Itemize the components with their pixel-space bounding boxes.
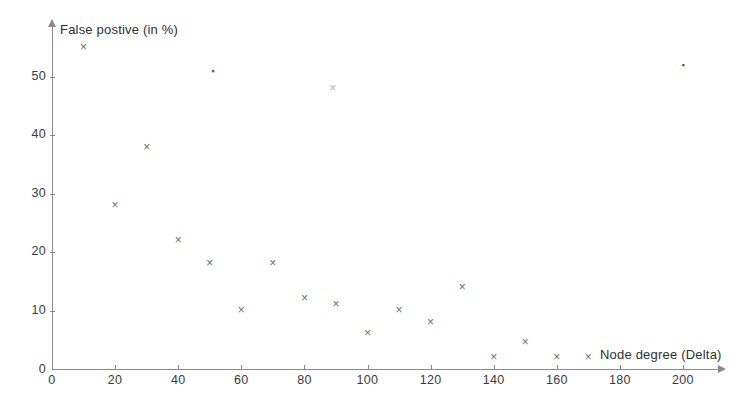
y-tick-10 (50, 311, 55, 312)
data-point: × (551, 352, 562, 363)
data-point: × (299, 293, 310, 304)
y-tick-20 (50, 252, 55, 253)
y-tick-label-30: 30 (16, 186, 46, 200)
x-tick-label-180: 180 (597, 373, 643, 387)
data-point: × (457, 282, 468, 293)
x-tick-label-60: 60 (218, 373, 264, 387)
y-tick-label-20: 20 (16, 244, 46, 258)
y-axis-arrow-icon (48, 19, 56, 27)
data-point: × (267, 258, 278, 269)
y-tick-40 (50, 135, 55, 136)
x-tick-160 (557, 365, 558, 370)
data-point: × (520, 337, 531, 348)
data-point: ▪ (207, 66, 218, 77)
data-point: × (204, 258, 215, 269)
x-tick-20 (115, 365, 116, 370)
x-tick-40 (178, 365, 179, 370)
x-tick-label-140: 140 (471, 373, 517, 387)
x-axis-title: Node degree (Delta) (600, 347, 722, 362)
data-point: × (78, 42, 89, 53)
x-tick-label-160: 160 (534, 373, 580, 387)
x-tick-100 (368, 365, 369, 370)
x-tick-label-200: 200 (660, 373, 706, 387)
data-point: × (173, 235, 184, 246)
data-point: × (327, 83, 338, 94)
data-point: × (141, 142, 152, 153)
x-tick-label-40: 40 (155, 373, 201, 387)
x-tick-label-20: 20 (92, 373, 138, 387)
data-point: × (583, 352, 594, 363)
x-tick-140 (494, 365, 495, 370)
x-tick-60 (241, 365, 242, 370)
y-axis-title: False postive (in %) (60, 22, 178, 37)
data-point: ▪ (678, 60, 689, 71)
data-point: × (362, 328, 373, 339)
data-point: × (488, 352, 499, 363)
y-tick-50 (50, 77, 55, 78)
y-tick-30 (50, 194, 55, 195)
x-tick-label-0: 0 (29, 373, 75, 387)
y-tick-label-10: 10 (16, 303, 46, 317)
data-point: × (394, 305, 405, 316)
data-point: × (236, 305, 247, 316)
x-tick-80 (304, 365, 305, 370)
x-tick-label-80: 80 (281, 373, 327, 387)
x-tick-label-120: 120 (408, 373, 454, 387)
x-tick-120 (431, 365, 432, 370)
scatter-chart-figure: False postive (in %) Node degree (Delta)… (0, 0, 741, 413)
x-tick-180 (620, 365, 621, 370)
plot-area: False postive (in %) Node degree (Delta)… (0, 0, 741, 413)
x-axis-arrow-icon (718, 365, 726, 373)
y-tick-label-50: 50 (16, 69, 46, 83)
x-tick-label-100: 100 (345, 373, 391, 387)
y-tick-label-40: 40 (16, 127, 46, 141)
data-point: × (110, 200, 121, 211)
data-point: × (425, 317, 436, 328)
data-point: × (330, 299, 341, 310)
x-tick-200 (683, 365, 684, 370)
